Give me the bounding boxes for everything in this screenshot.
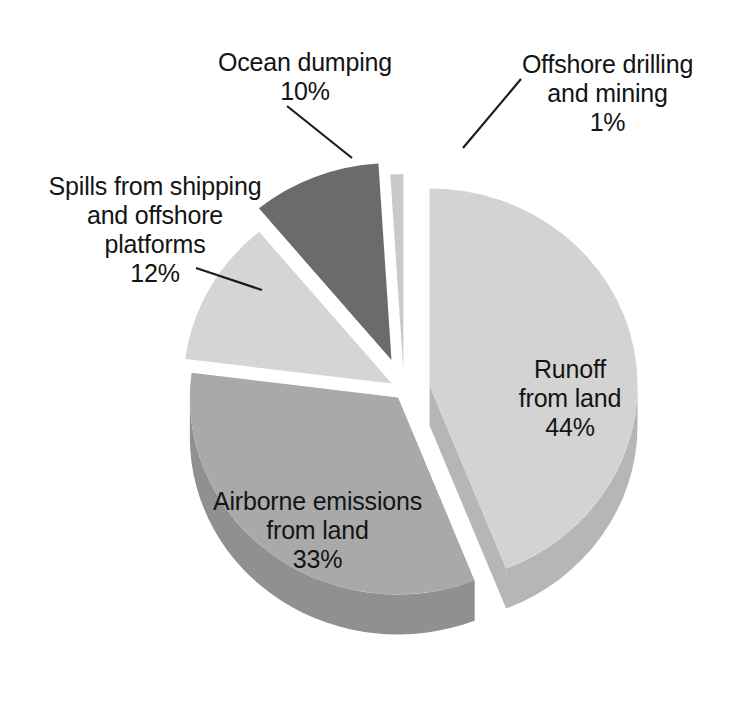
label-runoff-line1: Runoff <box>490 355 650 384</box>
label-airborne-emissions-from-land: Airborne emissions from land 33% <box>195 487 440 574</box>
label-ocean-dumping-line1: Ocean dumping <box>190 48 420 77</box>
label-ocean-dumping-value: 10% <box>190 77 420 106</box>
label-offshore-drilling-value: 1% <box>500 108 715 137</box>
label-runoff-from-land: Runoff from land 44% <box>490 355 650 442</box>
label-spills-line2: and offshore <box>20 201 290 230</box>
label-runoff-value: 44% <box>490 413 650 442</box>
leader-line-ocean-dumping <box>287 106 352 158</box>
label-airborne-line2: from land <box>195 516 440 545</box>
label-spills-value: 12% <box>20 259 290 288</box>
slice-offshore-drilling-and-mining[interactable] <box>390 174 403 371</box>
label-airborne-value: 33% <box>195 545 440 574</box>
label-offshore-drilling-and-mining: Offshore drilling and mining 1% <box>500 50 715 137</box>
slice-top-face <box>390 174 403 371</box>
label-runoff-line2: from land <box>490 384 650 413</box>
label-spills-line1: Spills from shipping <box>20 172 290 201</box>
label-offshore-drilling-line1: Offshore drilling <box>500 50 715 79</box>
label-spills-line3: platforms <box>20 230 290 259</box>
label-ocean-dumping: Ocean dumping 10% <box>190 48 420 106</box>
label-airborne-line1: Airborne emissions <box>195 487 440 516</box>
label-spills-from-shipping: Spills from shipping and offshore platfo… <box>20 172 290 288</box>
pie-chart: Ocean dumping 10% Offshore drilling and … <box>0 0 735 702</box>
label-offshore-drilling-line2: and mining <box>500 79 715 108</box>
